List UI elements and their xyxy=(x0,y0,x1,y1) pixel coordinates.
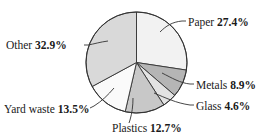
slice-label-glass-name: Glass xyxy=(196,100,224,112)
slice-label-metals: Metals 8.9% xyxy=(196,80,256,92)
slice-label-plastics-name: Plastics xyxy=(112,122,150,134)
slice-label-yard-waste-value: 13.5% xyxy=(58,103,90,115)
slice-label-glass: Glass 4.6% xyxy=(196,101,250,113)
slice-label-paper: Paper 27.4% xyxy=(188,17,249,29)
slice-label-plastics: Plastics 12.7% xyxy=(112,123,182,135)
slice-label-yard-waste-name: Yard waste xyxy=(4,103,58,115)
pie-slice-group xyxy=(86,12,187,113)
slice-label-paper-name: Paper xyxy=(188,16,217,28)
pie-chart-figure: Paper 27.4% Other 32.9% Metals 8.9% Glas… xyxy=(0,0,264,139)
pie-slice-paper xyxy=(137,12,188,70)
slice-label-other-value: 32.9% xyxy=(35,39,67,51)
slice-label-glass-value: 4.6% xyxy=(224,100,250,112)
slice-label-metals-name: Metals xyxy=(196,79,230,91)
slice-label-plastics-value: 12.7% xyxy=(150,122,182,134)
slice-label-other-name: Other xyxy=(6,39,35,51)
slice-label-paper-value: 27.4% xyxy=(217,16,249,28)
slice-label-metals-value: 8.9% xyxy=(230,79,256,91)
slice-label-yard-waste: Yard waste 13.5% xyxy=(4,104,89,116)
slice-label-other: Other 32.9% xyxy=(6,40,67,52)
